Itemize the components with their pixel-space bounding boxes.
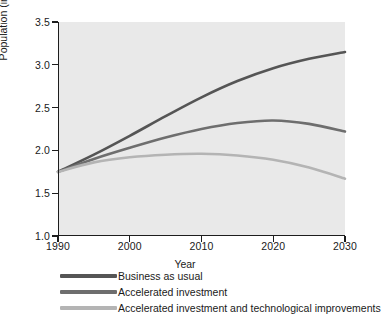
plot-area xyxy=(58,22,345,236)
y-axis-tick-label: 3.5 xyxy=(35,16,50,28)
y-axis-tick-label: 1.5 xyxy=(35,187,50,199)
y-axis-tick-label: 2.5 xyxy=(35,102,50,114)
y-axis-tick-label: 2.0 xyxy=(35,144,50,156)
legend-swatch xyxy=(60,306,117,309)
x-axis-tick-label: 2030 xyxy=(333,240,357,252)
x-axis-tick-label: 2010 xyxy=(190,240,214,252)
series-line xyxy=(58,120,345,171)
x-axis-tick-label: 2020 xyxy=(261,240,285,252)
y-axis-tick xyxy=(52,107,58,108)
y-axis-tick xyxy=(52,64,58,65)
legend-item: Accelerated investment xyxy=(60,284,370,300)
y-axis-tick xyxy=(52,21,58,22)
legend-item: Accelerated investment and technological… xyxy=(60,300,370,316)
y-axis-line xyxy=(58,22,59,236)
legend-label: Business as usual xyxy=(117,270,203,282)
y-axis-tick-label: 3.0 xyxy=(35,59,50,71)
legend-item: Business as usual xyxy=(60,268,370,284)
chart-legend: Business as usualAccelerated investmentA… xyxy=(60,268,370,316)
x-axis-tick-label: 1990 xyxy=(46,240,70,252)
x-axis-tick-label: 2000 xyxy=(118,240,142,252)
legend-label: Accelerated investment xyxy=(117,286,227,298)
legend-swatch xyxy=(60,274,117,277)
y-axis-tick xyxy=(52,150,58,151)
x-axis-tick-labels: 19902000201020202030 xyxy=(0,240,370,256)
legend-label: Accelerated investment and technological… xyxy=(117,302,381,314)
legend-swatch xyxy=(60,290,117,293)
series-lines xyxy=(58,22,345,236)
y-axis-tick xyxy=(52,193,58,194)
y-axis-title: Population (in billions) xyxy=(0,0,9,69)
